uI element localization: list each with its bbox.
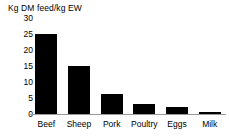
- x-axis-label-eggs: Eggs: [161, 119, 194, 129]
- bar-poultry: [133, 104, 155, 114]
- bar-eggs: [166, 107, 188, 114]
- x-axis-label-sheep: Sheep: [63, 119, 96, 129]
- bar-sheep: [68, 66, 90, 114]
- bar-chart: Kg DM feed/kg EW 302520151050 BeefSheepP…: [0, 0, 229, 139]
- bar-pork: [101, 94, 123, 114]
- bar-slot: [161, 18, 194, 114]
- bar-slot: [95, 18, 128, 114]
- x-axis-label-milk: Milk: [193, 119, 226, 129]
- x-axis-label-poultry: Poultry: [128, 119, 161, 129]
- x-axis-category-labels: BeefSheepPorkPoultryEggsMilk: [30, 119, 226, 129]
- bar-slot: [30, 18, 63, 114]
- bar-slot: [193, 18, 226, 114]
- x-axis-label-beef: Beef: [30, 119, 63, 129]
- x-axis-label-pork: Pork: [95, 119, 128, 129]
- bar-series: [30, 18, 226, 114]
- bar-slot: [63, 18, 96, 114]
- x-axis-baseline: [30, 114, 226, 115]
- bar-slot: [128, 18, 161, 114]
- bar-beef: [35, 34, 57, 114]
- bar-milk: [199, 112, 221, 114]
